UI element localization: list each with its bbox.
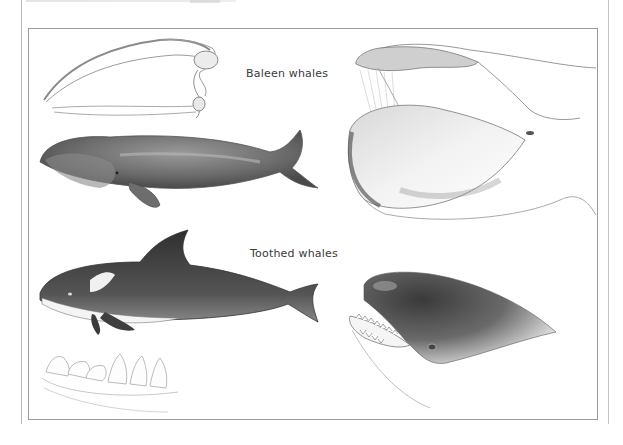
toothed-jaw-illustration <box>42 354 178 412</box>
toothed-whales-label: Toothed whales <box>250 247 338 260</box>
orca-body-illustration <box>40 230 318 335</box>
orca-head-illustration <box>350 272 556 408</box>
right-whale-body-illustration <box>40 130 318 207</box>
baleen-whales-label: Baleen whales <box>246 67 328 80</box>
baleen-skull-illustration <box>44 39 218 118</box>
right-whale-head-illustration <box>348 44 596 219</box>
